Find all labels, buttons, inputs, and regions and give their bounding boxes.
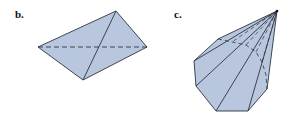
tetrahedron-figure-b — [38, 11, 147, 80]
geometry-figures — [0, 0, 291, 120]
pyramid-figure-c — [194, 10, 278, 111]
